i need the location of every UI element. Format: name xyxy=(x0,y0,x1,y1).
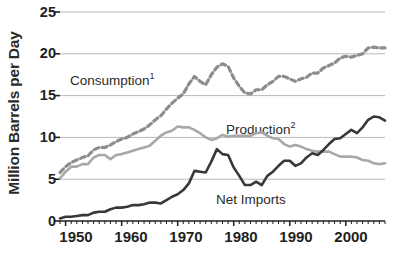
y-axis-tick-marks xyxy=(54,12,60,221)
gridlines xyxy=(60,12,385,221)
data-series-paths xyxy=(60,47,385,218)
oil-supply-line-chart: Million Barrels per Day 25 20 15 10 5 0 … xyxy=(0,0,393,258)
plot-area xyxy=(0,0,393,258)
